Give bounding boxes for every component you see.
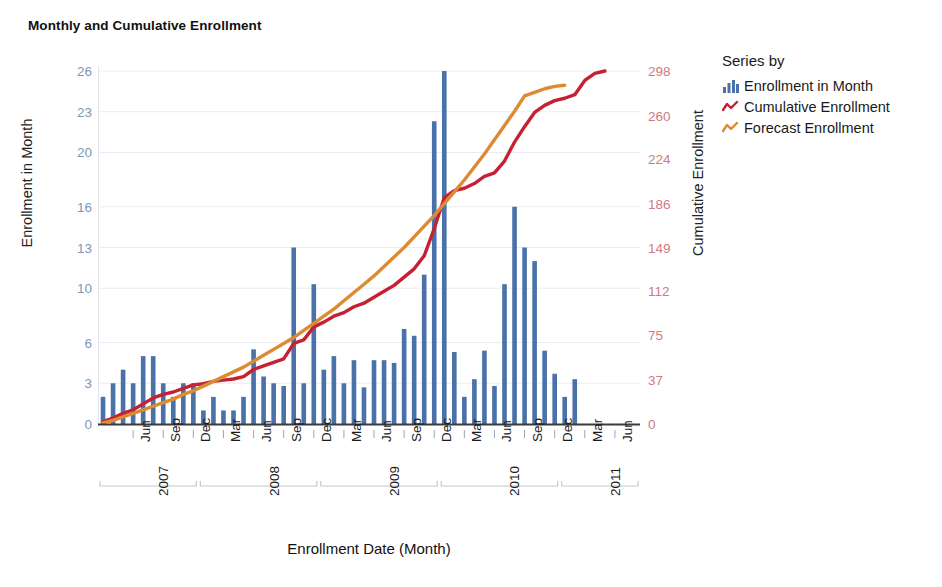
- x-axis-month-label: Sep: [289, 418, 304, 442]
- legend-item-label: Cumulative Enrollment: [744, 99, 890, 115]
- left-axis-tick-labels: 036101316202326: [46, 60, 92, 435]
- x-axis-month-label: Sep: [409, 418, 424, 442]
- plot-svg: [98, 66, 640, 428]
- left-axis-title: Enrollment in Month: [19, 78, 35, 288]
- bar-chart-icon: [722, 78, 739, 93]
- bar: [412, 336, 417, 424]
- bar: [261, 376, 266, 424]
- x-axis-month-label: Sep: [530, 418, 545, 442]
- legend-item-label: Enrollment in Month: [744, 78, 873, 94]
- legend-items: Enrollment in MonthCumulative Enrollment…: [722, 75, 937, 138]
- x-axis-month-label: Jun: [138, 420, 153, 442]
- bar: [332, 356, 337, 424]
- bar: [502, 284, 507, 424]
- bar: [322, 370, 327, 424]
- bar: [482, 351, 487, 424]
- left-axis-tick: 23: [77, 104, 92, 119]
- legend-item[interactable]: Forecast Enrollment: [722, 117, 937, 138]
- legend: Series by Enrollment in MonthCumulative …: [722, 52, 937, 138]
- year-bracket: [441, 481, 557, 486]
- chart-container: Monthly and Cumulative Enrollment 036101…: [0, 0, 942, 587]
- left-axis-tick: 26: [77, 64, 92, 79]
- legend-item[interactable]: Enrollment in Month: [722, 75, 937, 96]
- left-axis-tick: 6: [84, 335, 92, 350]
- year-bracket: [200, 481, 316, 486]
- x-axis-year-label: 2011: [608, 467, 623, 496]
- right-axis-tick: 75: [648, 328, 663, 343]
- right-axis-tick: 260: [648, 109, 671, 124]
- x-axis-month-label: Dec: [319, 418, 334, 442]
- right-axis-tick: 149: [648, 240, 671, 255]
- x-axis-month-label: Jun: [620, 420, 635, 442]
- bar: [151, 356, 156, 424]
- line-zigzag-icon: [722, 120, 739, 135]
- x-axis-month-label: Sep: [168, 418, 183, 442]
- x-axis-rules: [98, 430, 640, 530]
- x-axis-month-label: Jun: [499, 420, 514, 442]
- x-axis-month-label: Dec: [439, 418, 454, 442]
- x-axis-month-label: Dec: [198, 418, 213, 442]
- bar: [462, 397, 467, 424]
- bar: [422, 275, 427, 424]
- bar: [452, 352, 457, 424]
- x-axis-month-label: Jun: [259, 420, 274, 442]
- x-axis-year-label: 2009: [387, 466, 402, 496]
- year-bracket: [100, 481, 196, 486]
- x-axis-month-label: Mar: [590, 419, 605, 442]
- right-axis-title: Cumulative Enrollment: [690, 78, 706, 288]
- bar: [492, 386, 497, 424]
- bar: [311, 284, 316, 424]
- chart-title: Monthly and Cumulative Enrollment: [28, 18, 262, 33]
- bar: [442, 71, 447, 424]
- right-axis-tick: 186: [648, 196, 671, 211]
- left-axis-tick: 10: [77, 281, 92, 296]
- bar: [472, 379, 477, 424]
- x-axis-month-label: Mar: [349, 419, 364, 442]
- bar: [532, 261, 537, 424]
- x-axis-year-label: 2008: [267, 466, 282, 496]
- bar: [552, 374, 557, 424]
- left-axis-tick: 0: [84, 417, 92, 432]
- bar: [342, 383, 347, 424]
- bar: [382, 360, 387, 424]
- bar: [281, 386, 286, 424]
- bar: [141, 356, 146, 424]
- x-axis: JunSepDecMarJunSepDecMarJunSepDecMarJunS…: [98, 430, 640, 530]
- right-axis-tick-labels: 03775112149186224260298: [648, 60, 694, 435]
- bar: [512, 207, 517, 424]
- bar: [432, 121, 437, 424]
- right-axis-tick: 224: [648, 151, 671, 166]
- right-axis-tick: 112: [648, 284, 670, 299]
- plot-area: [98, 66, 640, 428]
- bar: [131, 383, 136, 424]
- x-axis-title: Enrollment Date (Month): [98, 540, 640, 557]
- bar: [542, 351, 547, 424]
- bar: [372, 360, 377, 424]
- left-axis-tick: 3: [84, 376, 92, 391]
- right-axis-tick: 298: [648, 64, 671, 79]
- bar: [522, 248, 527, 425]
- year-bracket: [562, 481, 638, 486]
- bar: [392, 363, 397, 424]
- x-axis-year-label: 2007: [156, 466, 171, 496]
- year-bracket: [321, 481, 437, 486]
- bar: [352, 360, 357, 424]
- left-axis-tick: 16: [77, 199, 92, 214]
- legend-item-label: Forecast Enrollment: [744, 120, 874, 136]
- line-zigzag-icon: [722, 99, 739, 114]
- left-axis-tick: 13: [77, 240, 92, 255]
- legend-item[interactable]: Cumulative Enrollment: [722, 96, 937, 117]
- right-axis-tick: 37: [648, 373, 663, 388]
- bar: [271, 383, 276, 424]
- x-axis-month-label: Mar: [228, 419, 243, 442]
- bar: [402, 329, 407, 424]
- right-axis-tick: 0: [648, 417, 656, 432]
- left-axis-tick: 20: [77, 145, 92, 160]
- x-axis-year-label: 2010: [507, 466, 522, 496]
- bar: [221, 410, 226, 424]
- legend-title: Series by: [722, 52, 937, 69]
- x-axis-month-label: Dec: [560, 418, 575, 442]
- x-axis-month-label: Mar: [469, 419, 484, 442]
- x-axis-month-label: Jun: [379, 420, 394, 442]
